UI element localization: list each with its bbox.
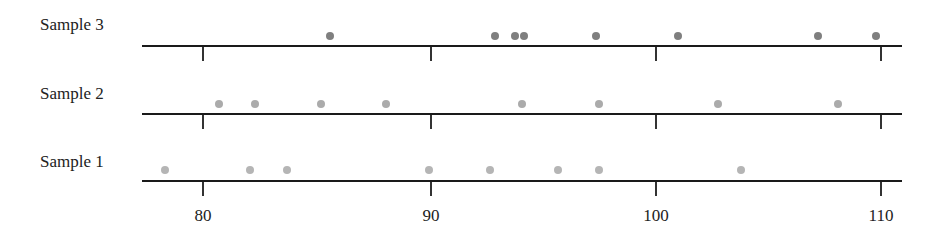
data-point	[317, 100, 325, 108]
data-point	[511, 32, 519, 40]
data-point	[326, 32, 334, 40]
data-point	[872, 32, 880, 40]
axis-line-sample-1	[142, 180, 902, 182]
data-point	[595, 166, 603, 174]
tick-80-row2	[202, 115, 204, 129]
tick-100-row2	[655, 115, 657, 129]
data-point	[595, 100, 603, 108]
x-tick-label-100: 100	[643, 206, 669, 226]
data-point	[425, 166, 433, 174]
data-point	[486, 166, 494, 174]
data-point	[382, 100, 390, 108]
data-point	[283, 166, 291, 174]
tick-100-row3	[655, 47, 657, 61]
axis-line-sample-2	[142, 113, 902, 115]
data-point	[491, 32, 499, 40]
data-point	[737, 166, 745, 174]
data-point	[518, 100, 526, 108]
dot-plot-chart: Sample 3 Sample 2 Sample 1 80 90 100 110	[0, 0, 935, 250]
data-point	[714, 100, 722, 108]
tick-90-row1	[430, 182, 432, 196]
axis-line-sample-3	[142, 45, 902, 47]
tick-110-row1	[880, 182, 882, 196]
data-point	[554, 166, 562, 174]
row-label-sample-3: Sample 3	[40, 15, 104, 35]
row-label-sample-1: Sample 1	[40, 152, 104, 172]
row-label-sample-2: Sample 2	[40, 84, 104, 104]
data-point	[592, 32, 600, 40]
tick-90-row2	[430, 115, 432, 129]
tick-110-row2	[880, 115, 882, 129]
tick-110-row3	[880, 47, 882, 61]
data-point	[834, 100, 842, 108]
tick-80-row1	[202, 182, 204, 196]
tick-90-row3	[430, 47, 432, 61]
data-point	[161, 166, 169, 174]
data-point	[215, 100, 223, 108]
x-tick-label-80: 80	[195, 206, 212, 226]
tick-100-row1	[655, 182, 657, 196]
data-point	[520, 32, 528, 40]
x-tick-label-90: 90	[423, 206, 440, 226]
data-point	[674, 32, 682, 40]
data-point	[246, 166, 254, 174]
x-tick-label-110: 110	[869, 206, 894, 226]
tick-80-row3	[202, 47, 204, 61]
data-point	[814, 32, 822, 40]
data-point	[251, 100, 259, 108]
